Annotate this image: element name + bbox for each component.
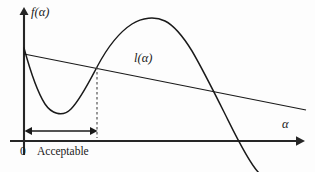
acceptable-range-arrow — [25, 127, 98, 135]
x-axis-label: α — [282, 118, 289, 131]
y-axis — [20, 7, 29, 155]
figure-canvas: f(α) l(α) α 0 Acceptable — [0, 0, 315, 172]
y-axis-arrowhead-icon — [20, 7, 29, 15]
origin-label: 0 — [20, 146, 26, 158]
acceptable-range-label: Acceptable — [37, 146, 89, 158]
acceptable-range-arrowhead-right-icon — [90, 127, 98, 135]
y-axis-label: f(α) — [31, 6, 49, 19]
acceptable-range-arrowhead-left-icon — [25, 127, 33, 135]
y-axis-label-arg: (α) — [34, 5, 49, 19]
line-label: l(α) — [134, 52, 152, 65]
line-label-arg: (α) — [137, 51, 152, 65]
x-axis-arrowhead-icon — [296, 136, 305, 145]
line-l-alpha — [24, 54, 306, 110]
